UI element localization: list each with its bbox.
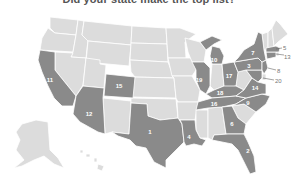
state-ks[interactable] [132,77,176,98]
state-ak[interactable] [14,120,64,168]
state-sd[interactable] [130,43,168,62]
state-nj[interactable] [262,60,268,74]
state-hi[interactable] [80,150,104,171]
state-de[interactable] [262,74,266,80]
state-ct[interactable] [266,52,276,59]
callout-nj: 8 [277,68,281,74]
state-ne[interactable] [130,60,174,78]
state-nd[interactable] [131,26,167,44]
us-map: 1 2 3 4 6 7 9 10 11 12 15 14 16 17 18 19… [0,0,298,187]
state-ny[interactable] [234,32,266,62]
callout-line-nj [268,68,276,70]
state-fl[interactable] [212,134,256,174]
callout-ma: 5 [283,45,287,51]
state-ar[interactable] [177,102,198,120]
state-nm[interactable] [103,98,131,134]
label-tn: 16 [211,101,218,107]
label-ky: 18 [217,90,224,96]
label-il: 19 [196,77,203,83]
callout-md: 20 [275,78,282,84]
state-me[interactable] [272,20,288,46]
label-ca: 11 [47,77,54,83]
label-az: 12 [86,111,93,117]
label-va: 14 [252,85,259,91]
label-co: 15 [116,83,123,89]
state-in[interactable] [210,64,224,90]
label-mi: 10 [211,57,218,63]
callout-ct: 13 [284,54,291,60]
label-oh: 17 [226,73,233,79]
